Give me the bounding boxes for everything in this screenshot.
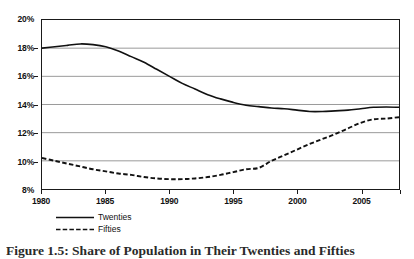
x-tick-label: 2005 [352,196,370,206]
y-tick-mark [34,105,38,106]
series-lines [42,20,399,189]
y-tick-mark [34,48,38,49]
y-tick-label: 14% [18,100,34,110]
chart-legend: Twenties Fifties [55,211,215,235]
plot-area [41,19,400,190]
x-tick-mark [41,190,42,194]
x-axis: 198019851990199520002005 [41,190,400,210]
x-tick-mark [169,190,170,194]
y-tick-label: 20% [18,14,34,24]
x-tick-mark [297,190,298,194]
legend-label-twenties: Twenties [98,212,132,222]
x-tick-label: 1995 [224,196,242,206]
x-tick-label: 1980 [32,196,50,206]
x-tick-mark [105,190,106,194]
y-tick-mark [34,162,38,163]
y-tick-label: 16% [18,71,34,81]
figure-caption: Figure 1.5: Share of Population in Their… [6,243,410,259]
legend-item-twenties: Twenties [55,211,215,223]
y-tick-label: 10% [18,157,34,167]
x-tick-label: 1985 [96,196,114,206]
legend-item-fifties: Fifties [55,223,215,235]
y-tick-mark [34,133,38,134]
series-line-twenties [42,44,399,112]
series-line-fifties [42,117,399,179]
legend-label-fifties: Fifties [98,224,121,234]
x-tick-mark [400,190,401,194]
legend-swatch-dashed-icon [55,225,95,234]
y-tick-label: 18% [18,43,34,53]
y-tick-label: 12% [18,128,34,138]
x-tick-mark [233,190,234,194]
y-axis: 8%10%12%14%16%18%20% [0,19,38,190]
x-tick-label: 1990 [160,196,178,206]
legend-swatch-solid-icon [55,213,95,222]
y-tick-mark [34,76,38,77]
x-tick-mark [362,190,363,194]
y-tick-label: 8% [22,185,34,195]
x-tick-label: 2000 [288,196,306,206]
